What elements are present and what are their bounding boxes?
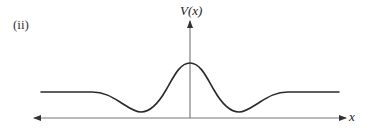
potential-figure: (ii) V(x) x (0, 0, 371, 137)
x-axis-label: x (349, 109, 355, 125)
y-axis-label: V(x) (180, 3, 202, 19)
potential-plot (0, 0, 371, 137)
panel-label: (ii) (13, 17, 29, 33)
y-axis-arrow-icon (187, 20, 193, 28)
